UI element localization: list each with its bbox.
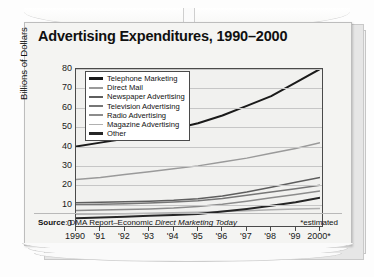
legend-swatch-icon xyxy=(89,87,103,89)
book-bottom-line-3 xyxy=(34,253,342,262)
gridline-20 xyxy=(76,185,322,186)
y-axis-title: Billions of Dollars xyxy=(18,27,29,100)
y-tick-label-60: 60 xyxy=(62,102,72,112)
x-axis-labels: 1990'91'92'93'94'95'96'97'98'992000* xyxy=(75,227,321,241)
series-line-1 xyxy=(76,143,320,180)
legend-label: Newspaper Advertising xyxy=(107,92,185,101)
y-tick-label-40: 40 xyxy=(62,141,72,151)
y-tick-label-70: 70 xyxy=(62,82,72,92)
legend-item: Other xyxy=(89,129,185,138)
legend-item: Radio Advertising xyxy=(89,111,185,120)
gridline-10 xyxy=(76,205,322,206)
gridline-30 xyxy=(76,166,322,167)
footer-divider xyxy=(34,213,342,214)
y-axis-labels: 01020304050607080 xyxy=(46,62,72,232)
legend-label: Radio Advertising xyxy=(107,111,166,120)
y-tick-label-20: 20 xyxy=(62,179,72,189)
legend-swatch-icon xyxy=(89,124,103,126)
book-spine-notch xyxy=(183,8,195,23)
legend-label: Direct Mail xyxy=(107,83,143,92)
source-publication: Direct Marketing Today xyxy=(155,218,237,227)
legend-swatch-icon xyxy=(89,77,103,80)
gridline-40 xyxy=(76,147,322,148)
legend-swatch-icon xyxy=(89,114,103,116)
chart-footer: Source: DMA Report–Economic Direct Marke… xyxy=(38,218,338,227)
legend-swatch-icon xyxy=(89,96,103,98)
legend-item: Magazine Advertising xyxy=(89,120,185,129)
gridline-80 xyxy=(76,69,322,70)
y-tick-label-80: 80 xyxy=(62,63,72,73)
estimated-note: *estimated xyxy=(300,218,338,227)
chart-title: Advertising Expenditures, 1990–2000 xyxy=(38,28,287,44)
legend-label: Other xyxy=(107,129,126,138)
legend-label: Television Advertising xyxy=(107,102,180,111)
y-tick-label-10: 10 xyxy=(62,199,72,209)
legend-item: Telephone Marketing xyxy=(89,74,185,83)
legend-item: Direct Mail xyxy=(89,83,185,92)
y-tick-label-50: 50 xyxy=(62,121,72,131)
legend-swatch-icon xyxy=(89,132,103,135)
source-label: Source xyxy=(38,218,65,227)
book-chart-illustration: Advertising Expenditures, 1990–2000 Bill… xyxy=(0,0,374,277)
legend-swatch-icon xyxy=(89,105,103,107)
legend-label: Telephone Marketing xyxy=(107,74,178,83)
legend-label: Magazine Advertising xyxy=(107,120,179,129)
source-note: Source: DMA Report–Economic Direct Marke… xyxy=(38,218,237,227)
legend-item: Newspaper Advertising xyxy=(89,92,185,101)
legend-item: Television Advertising xyxy=(89,102,185,111)
chart-card: Advertising Expenditures, 1990–2000 Bill… xyxy=(24,22,350,244)
book-bottom-pages xyxy=(18,243,356,267)
y-tick-label-30: 30 xyxy=(62,160,72,170)
source-text: DMA Report–Economic xyxy=(70,218,155,227)
chart-legend: Telephone MarketingDirect MailNewspaper … xyxy=(85,71,190,141)
